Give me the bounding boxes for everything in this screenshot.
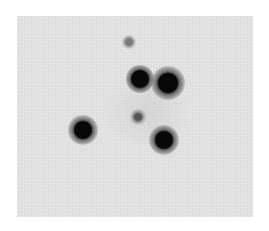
light-source-bright-d (149, 125, 179, 155)
light-source-bright-c (68, 115, 98, 145)
light-source-faint-center (130, 109, 146, 125)
sky-field (17, 16, 253, 217)
light-source-bright-a (126, 65, 154, 93)
image-canvas (0, 0, 269, 231)
light-source-bright-b (151, 66, 185, 100)
light-source-faint-top (122, 35, 136, 49)
